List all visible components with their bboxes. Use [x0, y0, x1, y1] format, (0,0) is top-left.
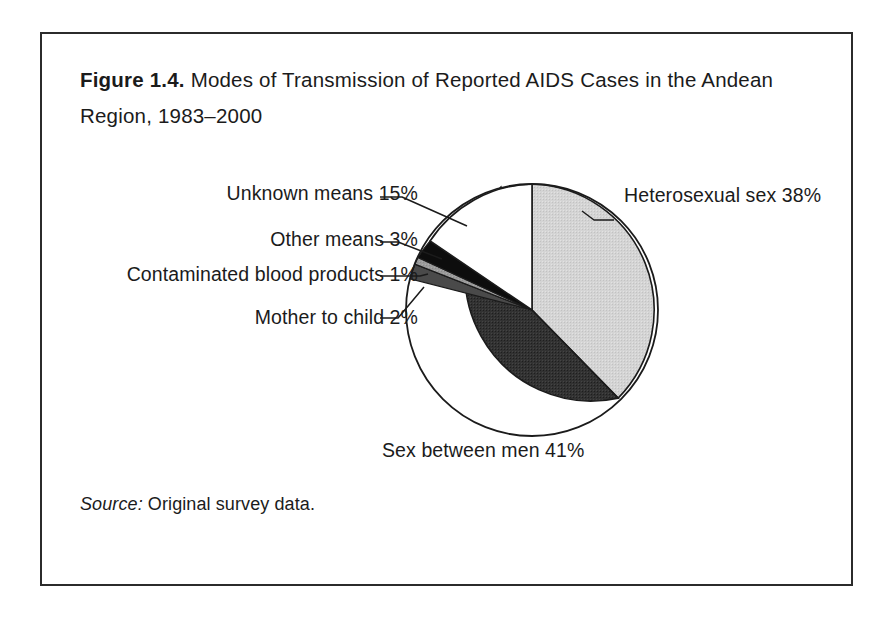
source-note: Source: Original survey data. [80, 494, 315, 515]
source-label: Source: [80, 494, 143, 514]
pie-label-other-means: Other means 3% [270, 228, 418, 250]
pie-label-heterosexual: Heterosexual sex 38% [624, 184, 821, 206]
pie-label-mother-to-child: Mother to child 2% [255, 306, 418, 328]
figure-frame: Figure 1.4. Modes of Transmission of Rep… [40, 32, 853, 586]
pie-label-contaminated-blood: Contaminated blood products 1% [127, 263, 418, 285]
pie-label-unknown-means: Unknown means 15% [227, 182, 418, 204]
pie-label-sex-between-men: Sex between men 41% [382, 439, 584, 461]
source-value: Original survey data. [148, 494, 315, 514]
